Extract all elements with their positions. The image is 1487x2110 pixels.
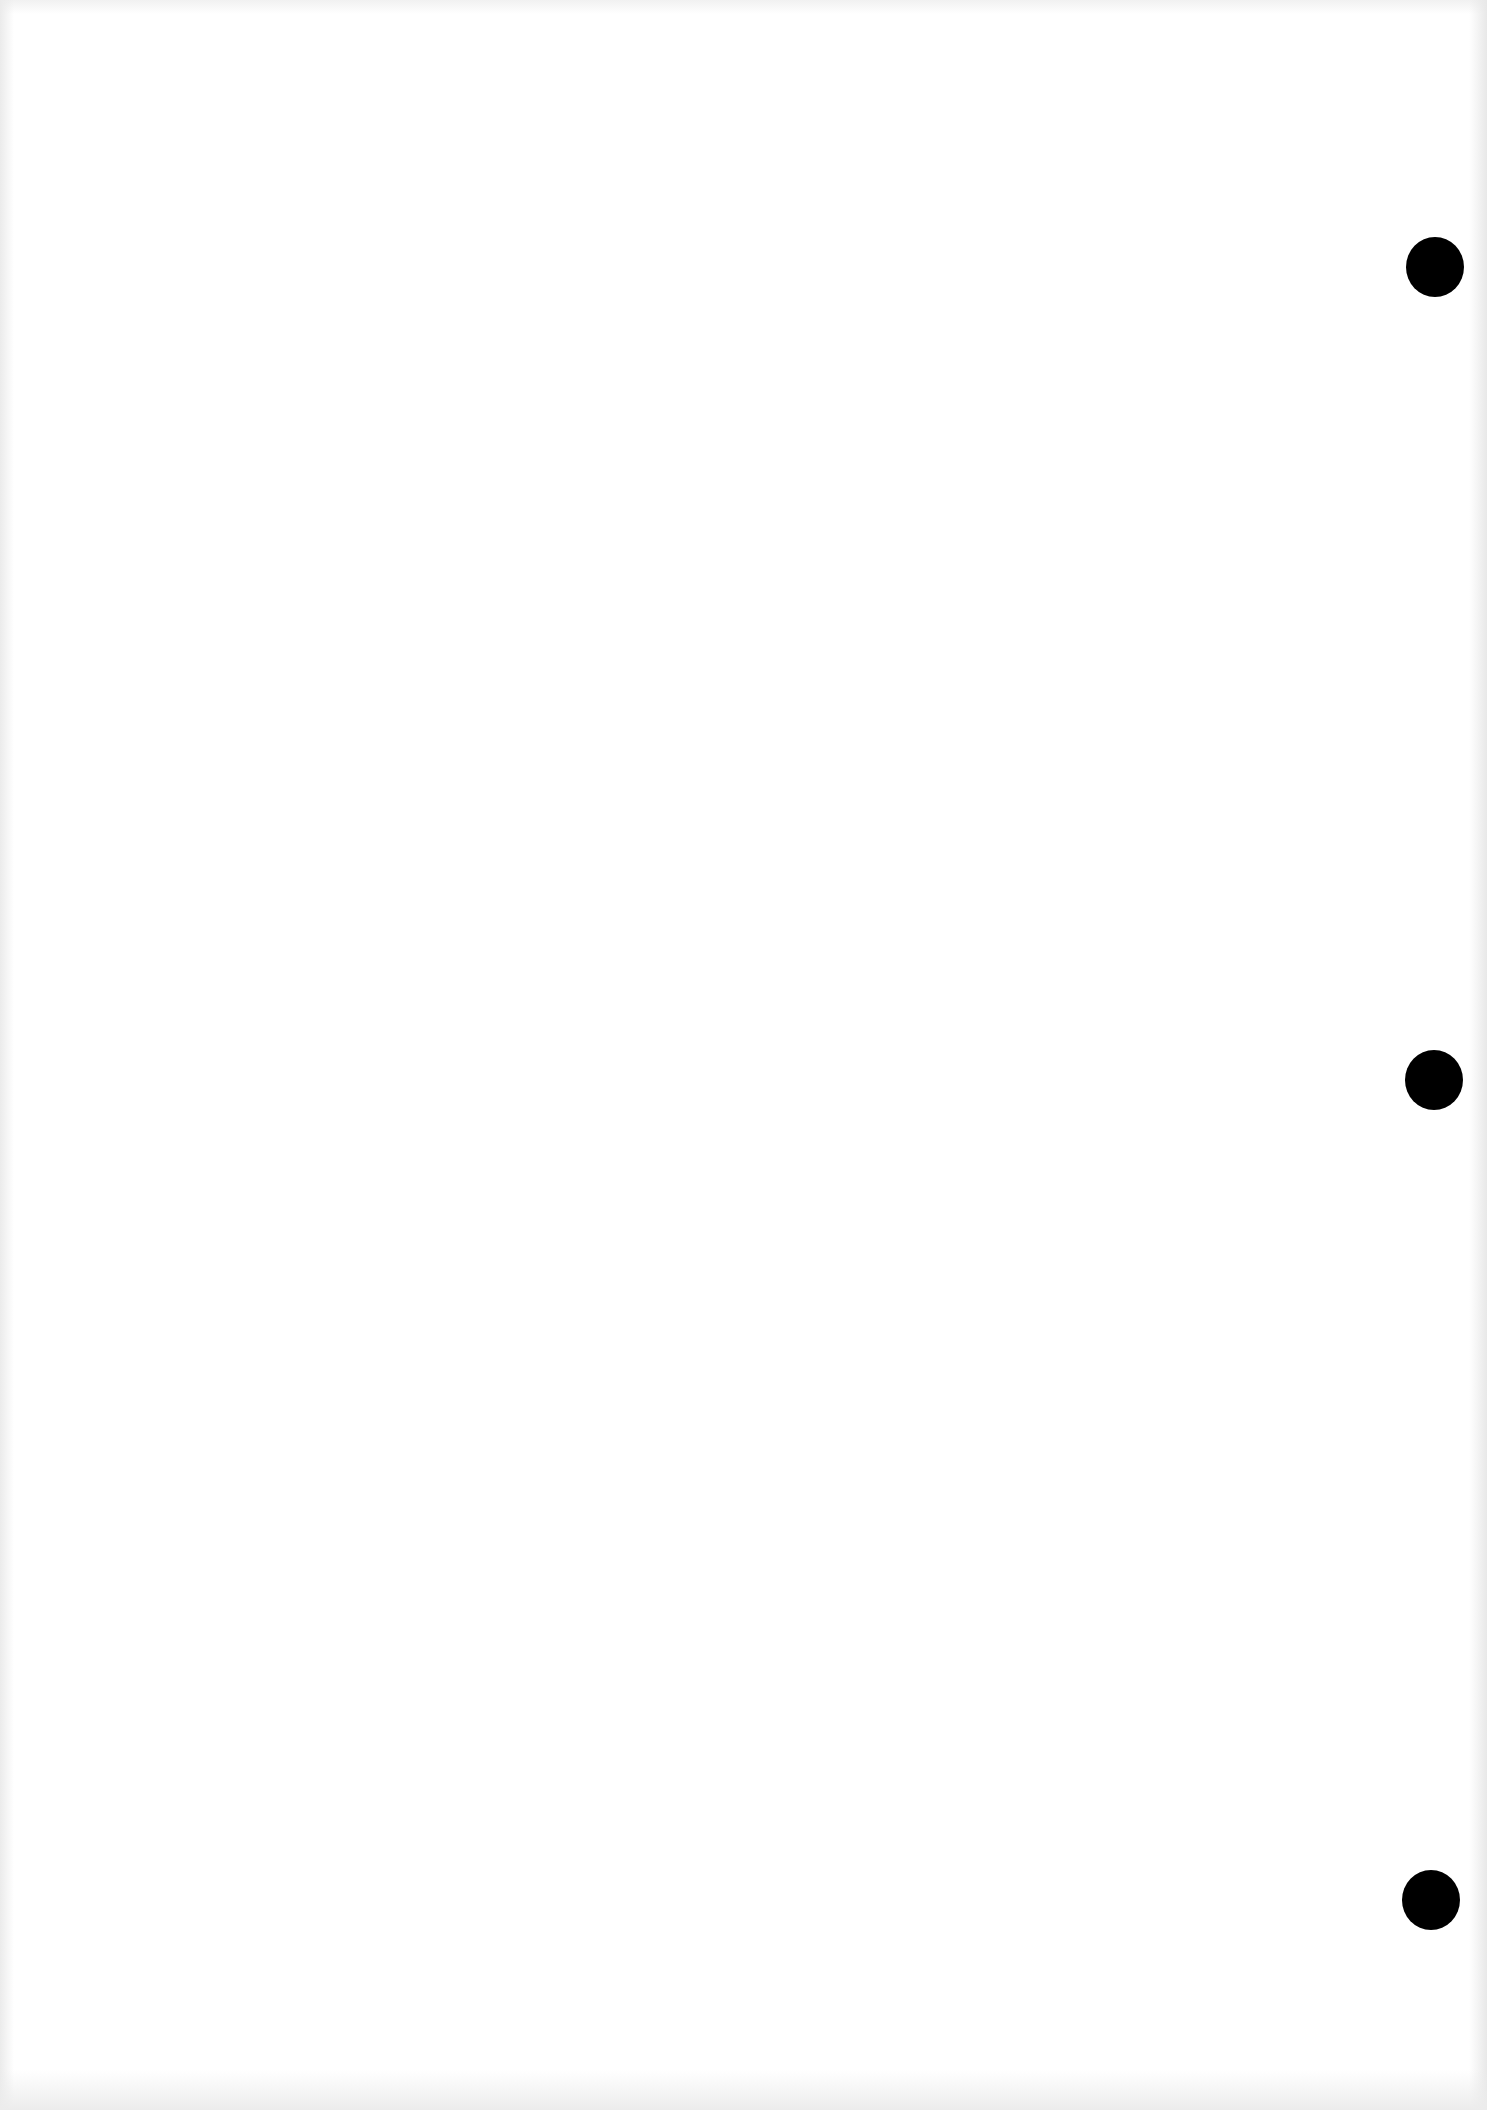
scan-edge-left xyxy=(0,0,14,2110)
punch-hole-top xyxy=(1406,237,1464,297)
scan-edge-right xyxy=(1469,0,1487,2110)
scan-edge-top xyxy=(0,0,1487,14)
punch-hole-middle xyxy=(1405,1050,1463,1110)
scan-edge-bottom xyxy=(0,2070,1487,2110)
blank-document-page xyxy=(0,0,1487,2110)
punch-hole-bottom xyxy=(1402,1870,1460,1930)
